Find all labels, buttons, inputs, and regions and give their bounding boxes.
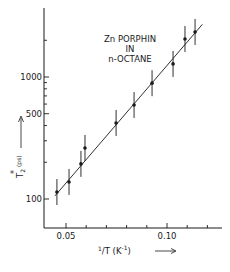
marker	[132, 103, 136, 107]
marker	[67, 180, 71, 184]
y-tick-label: 500	[26, 109, 42, 119]
chart: 0.050.101005001000 Zn PORPHININn-OCTANE …	[0, 0, 230, 272]
data-point	[114, 110, 118, 136]
data-point	[79, 151, 83, 177]
axis-labels: 1/T (K-1)T2*(ps)	[10, 116, 176, 256]
marker	[183, 37, 187, 41]
annotation-line: n-OCTANE	[108, 54, 151, 64]
marker	[83, 146, 87, 150]
y-tick-label: 100	[26, 194, 42, 204]
data-point	[83, 135, 87, 161]
data-point	[132, 92, 136, 118]
marker	[171, 62, 175, 66]
marker	[193, 30, 197, 34]
x-axis-label: 1/T (K-1)	[98, 244, 131, 256]
svg-text:T2*(ps): T2*(ps)	[10, 155, 26, 179]
data-point	[55, 179, 59, 205]
data-point	[67, 169, 71, 195]
ticks	[44, 40, 207, 228]
annotation: Zn PORPHININn-OCTANE	[104, 34, 156, 64]
marker	[114, 121, 118, 125]
y-axis-label: T2*(ps)	[10, 155, 26, 179]
annotation-line: IN	[126, 44, 135, 54]
marker	[55, 190, 59, 194]
data-point	[183, 26, 187, 52]
data-point	[150, 70, 154, 96]
data-point	[193, 19, 197, 45]
marker	[79, 162, 83, 166]
marker	[150, 81, 154, 85]
annotation-line: Zn PORPHIN	[104, 34, 156, 44]
data-point	[171, 51, 175, 77]
x-tick-label: 0.05	[57, 231, 76, 241]
x-tick-label: 0.10	[158, 231, 177, 241]
y-tick-label: 1000	[20, 72, 42, 82]
